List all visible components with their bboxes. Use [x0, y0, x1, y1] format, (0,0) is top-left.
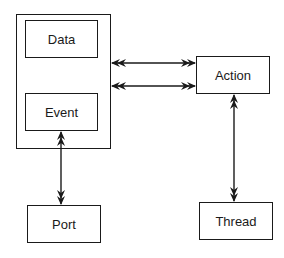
event-port-arrow [57, 131, 65, 205]
container-action-arrow-2 [111, 82, 196, 90]
container-action-arrow-1 [111, 59, 196, 67]
action-thread-arrow [230, 94, 238, 202]
connector-arrows [0, 0, 284, 258]
